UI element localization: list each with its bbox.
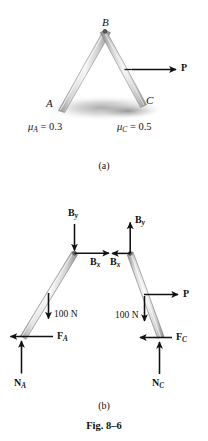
force-label-FA: FA: [57, 331, 68, 343]
figure-8-6: B A C P μA = 0.3 μC = 0.5 (a) By Bx 100 …: [0, 0, 208, 441]
figure-number: Fig. 8–6: [0, 421, 208, 432]
NA-subscript: A: [21, 382, 26, 390]
By-left-symbol: B: [68, 207, 75, 218]
Bx-right-symbol: B: [110, 256, 117, 267]
force-label-P-b: P: [183, 289, 189, 299]
force-label-FC: FC: [176, 332, 187, 344]
friction-coefficient-A: μA = 0.3: [28, 122, 62, 134]
FA-subscript: A: [63, 335, 68, 343]
Bx-left-symbol: B: [90, 256, 97, 267]
mu-value-C: = 0.5: [130, 121, 152, 132]
By-right-symbol: B: [135, 214, 142, 225]
point-label-A: A: [46, 98, 53, 109]
By-left-subscript: y: [75, 212, 78, 220]
force-label-NA: NA: [14, 378, 26, 390]
force-label-Bx-left: Bx: [90, 257, 100, 269]
force-label-weight-right: 100 N: [115, 311, 139, 321]
friction-coefficient-C: μC = 0.5: [117, 122, 152, 134]
force-label-NC: NC: [152, 378, 164, 390]
By-right-subscript: y: [142, 219, 145, 227]
force-label-By-right: By: [135, 215, 145, 227]
part-b-graphics: [11, 223, 179, 375]
force-label-Bx-right: Bx: [110, 257, 120, 269]
part-a-graphics: [42, 29, 176, 121]
mu-subscript-C: C: [122, 125, 127, 134]
FC-subscript: C: [182, 336, 187, 344]
force-label-P-a: P: [181, 63, 187, 73]
Bx-left-subscript: x: [97, 261, 101, 269]
figure-graphics: [0, 0, 208, 441]
force-label-By-left: By: [68, 208, 78, 220]
pin-joint-B: [103, 29, 107, 33]
point-label-B: B: [102, 17, 109, 28]
caption-b: (b): [0, 401, 208, 411]
mu-subscript-A: A: [33, 125, 38, 134]
Bx-right-subscript: x: [117, 261, 121, 269]
force-label-weight-left: 100 N: [54, 310, 78, 320]
mu-value-A: = 0.3: [41, 121, 63, 132]
NC-subscript: C: [159, 382, 164, 390]
caption-a: (a): [0, 161, 208, 171]
point-label-C: C: [146, 95, 153, 106]
